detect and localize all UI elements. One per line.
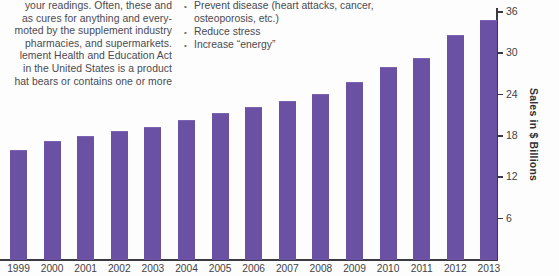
- chart-bar: [178, 120, 195, 260]
- y-axis-tick-label: 36: [506, 6, 518, 17]
- y-axis-tick-label: 30: [506, 47, 518, 58]
- list-item-continuation: osteoporosis, etc.): [184, 13, 424, 26]
- y-axis-tick: [498, 135, 503, 137]
- body-text-left-column: your readings. Often, these and as cures…: [0, 0, 172, 88]
- body-text-line: as cures for anything and every-: [0, 13, 172, 26]
- list-item: • Increase “energy”: [184, 39, 424, 52]
- list-item: • Reduce stress: [184, 26, 424, 39]
- y-axis-tick-label: 18: [506, 130, 518, 141]
- body-text-bullet-list: • Prevent disease (heart attacks, cancer…: [184, 0, 424, 52]
- chart-bar: [245, 107, 262, 260]
- x-axis-tick-label: 2002: [102, 263, 136, 275]
- y-axis-tick: [498, 52, 503, 54]
- y-axis-tick: [498, 11, 503, 13]
- y-axis-tick: [498, 176, 503, 178]
- chart-bar: [312, 94, 329, 260]
- chart-bar: [279, 101, 296, 260]
- x-axis-tick-label: 2010: [371, 263, 405, 275]
- x-axis-tick-label: 2013: [472, 263, 506, 275]
- bullet-icon: •: [184, 26, 194, 39]
- body-text-line: lement Health and Education Act: [0, 50, 172, 63]
- x-axis-tick-label: 1999: [2, 263, 36, 275]
- body-text-line: hat bears or contains one or more: [0, 76, 172, 89]
- x-axis-tick-label: 2001: [69, 263, 103, 275]
- bullet-icon: •: [184, 0, 194, 13]
- x-axis-line: [0, 259, 497, 261]
- chart-bar: [346, 82, 363, 260]
- body-text-line: pharmacies, and supermarkets.: [0, 38, 172, 51]
- page-canvas: your readings. Often, these and as cures…: [0, 0, 559, 276]
- y-axis-tick-label: 12: [506, 171, 518, 182]
- x-axis-tick-label: 2012: [438, 263, 472, 275]
- chart-bar: [144, 127, 161, 260]
- list-item: • Prevent disease (heart attacks, cancer…: [184, 0, 424, 13]
- y-axis-tick: [498, 94, 503, 96]
- chart-bar: [380, 67, 397, 260]
- x-axis-tick-label: 2005: [203, 263, 237, 275]
- list-item-label: Prevent disease (heart attacks, cancer,: [194, 0, 424, 13]
- x-axis-tick-label: 2003: [136, 263, 170, 275]
- x-axis-tick-label: 2011: [405, 263, 439, 275]
- chart-bar: [447, 35, 464, 260]
- x-axis-tick-label: 2004: [170, 263, 204, 275]
- x-axis-tick-label: 2008: [304, 263, 338, 275]
- body-text-line: moted by the supplement industry: [0, 25, 172, 38]
- x-axis-tick-label: 2006: [237, 263, 271, 275]
- x-axis-tick-label: 2007: [270, 263, 304, 275]
- x-axis-tick-label: 2000: [35, 263, 69, 275]
- chart-bar: [111, 131, 128, 260]
- chart-bar: [212, 113, 229, 260]
- chart-bar: [77, 136, 94, 260]
- x-axis-tick-label: 2009: [338, 263, 372, 275]
- body-text-line: in the United States is a product: [0, 63, 172, 76]
- chart-bar: [413, 58, 430, 260]
- chart-bar: [44, 141, 61, 260]
- y-axis-tick-label: 6: [506, 212, 512, 223]
- list-item-label: Reduce stress: [194, 26, 424, 39]
- body-text-line: your readings. Often, these and: [0, 0, 172, 13]
- chart-bar: [480, 20, 497, 260]
- y-axis-title: Sales in $ Billions: [528, 88, 540, 181]
- y-axis-tick-label: 24: [506, 88, 518, 99]
- bullet-icon: •: [184, 39, 194, 52]
- chart-bar: [10, 150, 27, 260]
- y-axis-line: [496, 8, 498, 261]
- list-item-label: Increase “energy”: [194, 39, 424, 52]
- y-axis-tick: [498, 218, 503, 220]
